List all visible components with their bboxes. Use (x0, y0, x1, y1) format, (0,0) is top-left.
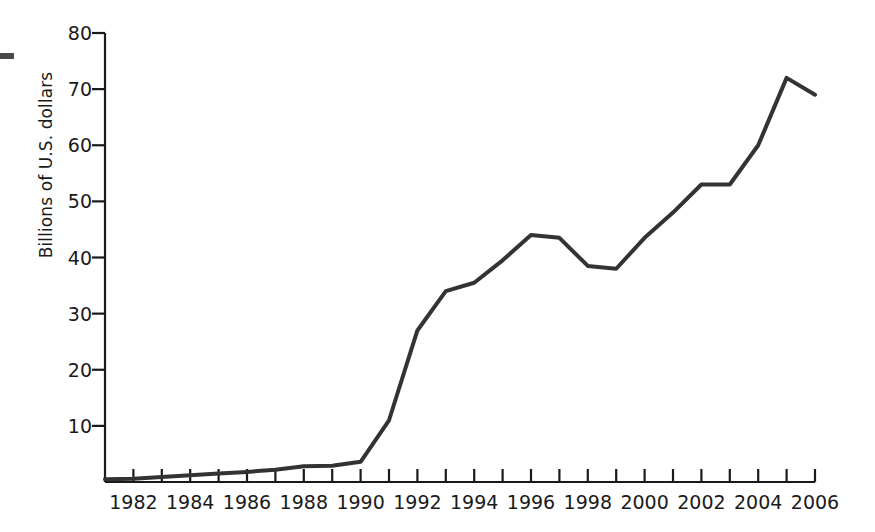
x-axis-tick-label: 2002 (677, 491, 725, 513)
x-axis-tick-label: 2000 (620, 491, 668, 513)
x-axis-tick-label: 1994 (450, 491, 498, 513)
x-axis-tick-label: 1990 (336, 491, 384, 513)
x-axis-tick-label: 1988 (280, 491, 328, 513)
y-axis-tick-label: 20 (40, 359, 92, 381)
axis-group (92, 33, 815, 482)
x-axis-tick-label: 1996 (507, 491, 555, 513)
y-axis-tick-label: 10 (40, 415, 92, 437)
y-axis-tick-label: 80 (40, 22, 92, 44)
plot-area (0, 0, 875, 532)
chart-figure: Billions of U.S. dollars 102030405060708… (0, 0, 875, 532)
y-axis-tick-label: 70 (40, 78, 92, 100)
y-axis-tick-label: 40 (40, 247, 92, 269)
x-axis-tick-label: 2004 (734, 491, 782, 513)
y-axis-tick-label: 30 (40, 303, 92, 325)
y-axis-ticks (92, 33, 105, 426)
data-line-billions-of-us-dollars (105, 78, 815, 479)
y-axis-tick-label: 60 (40, 134, 92, 156)
x-axis-tick-label: 1982 (109, 491, 157, 513)
x-axis-tick-label: 1986 (223, 491, 271, 513)
x-axis-tick-label: 1998 (564, 491, 612, 513)
x-axis-tick-label: 2006 (791, 491, 839, 513)
data-series-group (105, 78, 815, 479)
y-axis-tick-label: 50 (40, 190, 92, 212)
x-axis-tick-label: 1992 (393, 491, 441, 513)
x-axis-tick-label: 1984 (166, 491, 214, 513)
